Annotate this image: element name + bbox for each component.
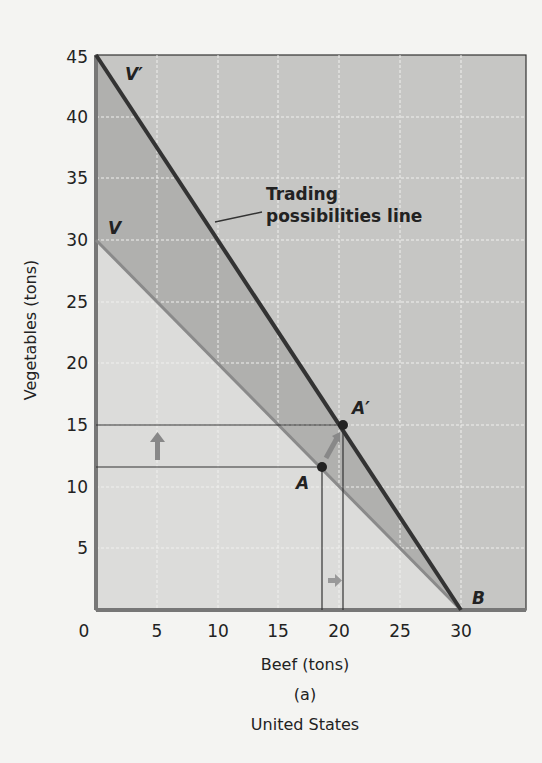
annotation-line1: Trading [266, 184, 338, 204]
svg-text:25: 25 [66, 292, 88, 312]
label-vprime: V′ [125, 64, 143, 84]
svg-text:15: 15 [267, 621, 289, 641]
svg-text:10: 10 [66, 477, 88, 497]
svg-text:25: 25 [389, 621, 411, 641]
svg-text:45: 45 [66, 47, 88, 67]
svg-text:20: 20 [328, 621, 350, 641]
point-aprime [338, 420, 348, 430]
svg-text:10: 10 [207, 621, 229, 641]
label-a: A [294, 473, 309, 493]
label-aprime: A′ [350, 398, 370, 418]
chart-title: United States [251, 715, 359, 734]
svg-text:40: 40 [66, 107, 88, 127]
label-v: V [108, 218, 123, 238]
x-axis-label: Beef (tons) [261, 655, 349, 674]
svg-text:5: 5 [152, 621, 163, 641]
x-tick-labels: 0 5 10 15 20 25 30 [79, 621, 472, 641]
svg-text:15: 15 [66, 415, 88, 435]
panel-label: (a) [294, 685, 316, 704]
svg-text:35: 35 [66, 168, 88, 188]
annotation-line2: possibilities line [266, 206, 422, 226]
svg-text:20: 20 [66, 353, 88, 373]
y-axis-label: Vegetables (tons) [21, 260, 40, 401]
svg-text:30: 30 [66, 230, 88, 250]
svg-text:30: 30 [450, 621, 472, 641]
svg-text:0: 0 [79, 621, 90, 641]
label-b: B [472, 588, 485, 608]
chart: V′ V A A′ B Trading possibilities line 5… [0, 0, 542, 763]
y-tick-labels: 5 10 15 20 25 30 35 40 45 [66, 47, 88, 558]
point-a [317, 462, 327, 472]
svg-text:5: 5 [77, 538, 88, 558]
